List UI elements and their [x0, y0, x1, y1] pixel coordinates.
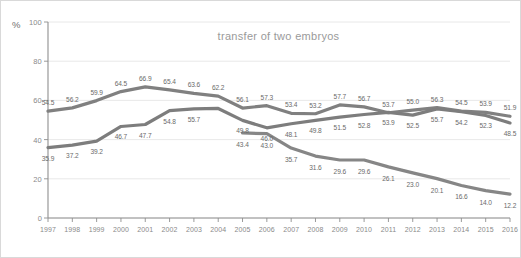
value-label: 56.3: [431, 95, 443, 102]
y-tick-label: 80: [33, 57, 42, 66]
value-label: 52.5: [407, 122, 419, 129]
x-tick-label: 2007: [283, 226, 299, 233]
x-tick-label: 2002: [162, 226, 178, 233]
value-label: 26.1: [382, 174, 394, 181]
y-axis-labels: 100806040200: [0, 22, 46, 218]
value-label: 53.2: [309, 101, 321, 108]
value-label: 48.1: [285, 130, 297, 137]
x-tick-label: 2005: [235, 226, 251, 233]
value-label: 31.6: [309, 164, 321, 171]
value-label: 29.6: [358, 167, 370, 174]
value-label: 47.7: [139, 131, 151, 138]
x-tick-label: 2016: [502, 226, 518, 233]
value-label: 39.2: [90, 148, 102, 155]
x-tick-label: 2009: [332, 226, 348, 233]
value-label: 53.9: [479, 100, 491, 107]
plot-area: 54.556.259.964.566.965.463.662.256.157.3…: [48, 22, 510, 218]
x-tick-label: 2004: [210, 226, 226, 233]
series-line-lower-series: [243, 133, 510, 194]
value-label: 52.8: [358, 121, 370, 128]
value-label: 14.0: [479, 198, 491, 205]
chart-container: transfer of two embryos % 100806040200 5…: [0, 0, 521, 258]
value-label: 16.6: [455, 193, 467, 200]
y-tick-label: 100: [29, 18, 42, 27]
value-label: 53.9: [382, 119, 394, 126]
value-label: 54.8: [163, 117, 175, 124]
x-tick-label: 2001: [137, 226, 153, 233]
value-label: 35.9: [42, 154, 54, 161]
value-label: 52.3: [479, 122, 491, 129]
value-label: 54.2: [455, 118, 467, 125]
x-tick-label: 1997: [40, 226, 56, 233]
y-tick-label: 60: [33, 96, 42, 105]
value-label: 23.0: [407, 180, 419, 187]
y-tick-label: 0: [38, 214, 42, 223]
value-label: 49.8: [309, 127, 321, 134]
value-label: 56.1: [236, 96, 248, 103]
value-label: 54.5: [455, 99, 467, 106]
x-tick-label: 2012: [405, 226, 421, 233]
value-label: 63.6: [188, 81, 200, 88]
value-label: 53.7: [382, 100, 394, 107]
x-tick-label: 2013: [429, 226, 445, 233]
value-label: 56.2: [66, 95, 78, 102]
value-label: 43.4: [236, 140, 248, 147]
value-label: 12.2: [504, 202, 516, 209]
x-tick-label: 2015: [478, 226, 494, 233]
value-label: 37.2: [66, 152, 78, 159]
x-tick-label: 2011: [381, 226, 396, 233]
value-label: 55.7: [188, 115, 200, 122]
value-label: 49.8: [236, 127, 248, 134]
value-label: 62.2: [212, 84, 224, 91]
x-tick-label: 2008: [307, 226, 323, 233]
value-label: 46.7: [115, 133, 127, 140]
value-label: 64.5: [115, 79, 127, 86]
x-tick-label: 1999: [89, 226, 105, 233]
value-label: 65.4: [163, 77, 175, 84]
y-tick-label: 20: [33, 174, 42, 183]
x-tick-label: 2010: [356, 226, 372, 233]
value-label: 53.4: [285, 101, 297, 108]
x-tick-label: 2000: [113, 226, 129, 233]
value-label: 29.6: [334, 167, 346, 174]
x-tick-label: 2003: [186, 226, 202, 233]
value-label: 59.9: [90, 88, 102, 95]
value-label: 56.7: [358, 94, 370, 101]
x-tick-label: 2014: [453, 226, 469, 233]
x-tick-label: 2006: [259, 226, 275, 233]
x-tick-label: 1998: [64, 226, 80, 233]
value-label: 51.9: [504, 104, 516, 111]
value-label: 55.7: [431, 115, 443, 122]
x-axis-labels: 1997199819992000200120022003200420052006…: [48, 226, 510, 242]
value-label: 43.0: [261, 141, 273, 148]
y-tick-label: 40: [33, 135, 42, 144]
value-label: 51.5: [334, 124, 346, 131]
value-label: 35.7: [285, 156, 297, 163]
value-label: 66.9: [139, 74, 151, 81]
value-label: 48.5: [504, 129, 516, 136]
value-label: 20.1: [431, 186, 443, 193]
value-label: 55.0: [407, 98, 419, 105]
value-label: 57.3: [261, 93, 273, 100]
value-label: 54.5: [42, 99, 54, 106]
value-label: 57.7: [334, 92, 346, 99]
